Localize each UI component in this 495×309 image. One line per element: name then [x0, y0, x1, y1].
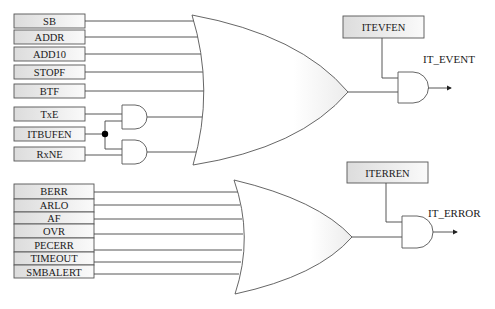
- event-input-btf: BTF: [14, 84, 85, 98]
- and-gate-rxne: [122, 140, 147, 164]
- error-section: BERR ARLO AF OVR PECERR TIMEOUT SMBALERT: [14, 162, 481, 294]
- svg-text:TxE: TxE: [40, 109, 58, 120]
- itevfen-wire: [382, 38, 398, 78]
- i2c-interrupt-logic-diagram: SB ADDR ADD10 STOPF BTF TxE ITBUFEN RxN: [0, 0, 495, 309]
- svg-text:BTF: BTF: [40, 86, 59, 97]
- error-input-smbalert: SMBALERT: [26, 267, 82, 278]
- error-enable-iterren: ITERREN: [347, 162, 428, 183]
- error-input-stack: BERR ARLO AF OVR PECERR TIMEOUT SMBALERT: [14, 184, 94, 278]
- and-gate-txe: [122, 105, 147, 129]
- error-input-af: AF: [47, 213, 61, 224]
- error-input-pecerr: PECERR: [34, 240, 74, 251]
- junction-dot: [102, 131, 108, 137]
- and-gate-error: [402, 216, 433, 248]
- error-input-arlo: ARLO: [40, 200, 69, 211]
- event-input-addr: ADDR: [14, 30, 85, 44]
- or-gate-event: [192, 15, 348, 165]
- svg-text:ITERREN: ITERREN: [365, 168, 410, 179]
- or-gate-error: [234, 180, 352, 294]
- event-input-txe: TxE: [14, 107, 85, 121]
- event-enable-itevfen: ITEVFEN: [343, 16, 424, 38]
- iterren-wire: [386, 183, 402, 222]
- svg-text:ITBUFEN: ITBUFEN: [27, 129, 72, 140]
- and-gate-event: [398, 72, 429, 103]
- svg-text:ADDR: ADDR: [35, 32, 65, 43]
- event-input-rxne: RxNE: [14, 147, 85, 161]
- event-section: SB ADDR ADD10 STOPF BTF TxE ITBUFEN RxN: [14, 14, 475, 165]
- error-input-ovr: OVR: [43, 226, 65, 237]
- svg-text:RxNE: RxNE: [36, 149, 62, 160]
- it-error-label: IT_ERROR: [428, 207, 481, 219]
- svg-text:SB: SB: [43, 16, 56, 27]
- svg-text:STOPF: STOPF: [34, 67, 65, 78]
- svg-text:ADD10: ADD10: [33, 49, 66, 60]
- it-event-label: IT_EVENT: [423, 53, 475, 65]
- event-input-add10: ADD10: [14, 47, 85, 61]
- error-input-timeout: TIMEOUT: [30, 253, 78, 264]
- event-input-itbufen: ITBUFEN: [14, 127, 85, 141]
- error-input-berr: BERR: [40, 186, 67, 197]
- error-input-wires: [94, 192, 243, 274]
- event-input-sb: SB: [14, 14, 85, 28]
- svg-text:ITEVFEN: ITEVFEN: [362, 22, 406, 33]
- event-input-stopf: STOPF: [14, 65, 85, 79]
